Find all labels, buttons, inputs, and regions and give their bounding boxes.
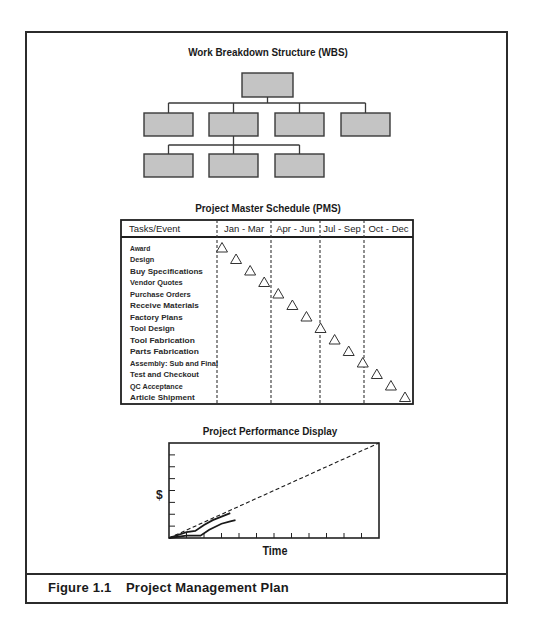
project-performance-chart	[0, 0, 536, 631]
x-axis-label: Time	[262, 544, 287, 558]
figure-number: Figure 1.1	[48, 580, 126, 595]
caption-divider	[25, 573, 508, 575]
baseline-line	[169, 443, 379, 538]
figure-caption: Figure 1.1Project Management Plan	[48, 580, 289, 595]
y-axis-label: $	[156, 488, 163, 502]
figure-title: Project Management Plan	[126, 580, 289, 595]
